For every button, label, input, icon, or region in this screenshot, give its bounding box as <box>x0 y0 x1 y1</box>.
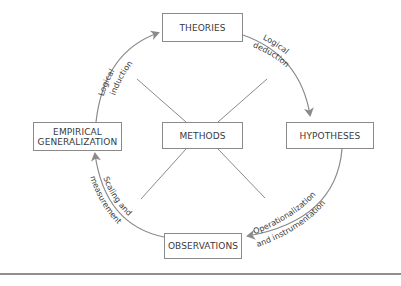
methods-link-observations-empirical <box>141 149 186 199</box>
node-observations-label: OBSERVATIONS <box>168 241 238 251</box>
node-hypotheses-label: HYPOTHESES <box>300 131 361 141</box>
methods-link-theories-empirical <box>137 79 186 122</box>
node-theories: THEORIES <box>162 13 243 42</box>
node-methods-label: METHODS <box>179 131 225 141</box>
research-cycle-diagram: Logical induction Logical deduction Oper… <box>0 0 401 286</box>
node-empirical-generalization: EMPIRICAL GENERALIZATION <box>33 122 122 151</box>
node-hypotheses: HYPOTHESES <box>286 122 374 149</box>
methods-link-theories-hypotheses <box>218 79 267 122</box>
node-observations: OBSERVATIONS <box>164 233 242 259</box>
node-theories-label: THEORIES <box>179 23 225 33</box>
node-empirical-generalization-label: EMPIRICAL GENERALIZATION <box>38 127 118 147</box>
methods-link-observations-hypotheses <box>218 149 265 198</box>
node-methods: METHODS <box>162 122 243 149</box>
bottom-divider <box>0 273 401 275</box>
